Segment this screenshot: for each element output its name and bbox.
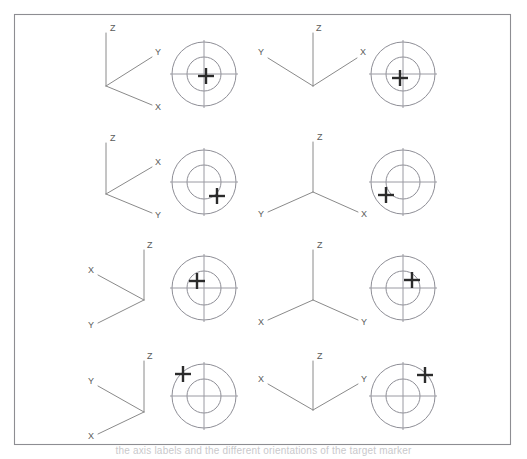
cell-r3c1-axis-triad: ZXY [88, 240, 153, 330]
cell-r3c1-axis-x [98, 275, 144, 300]
cell-r3c2: ZXY [258, 240, 437, 327]
cell-r1c2-axis-triad: ZYX [258, 23, 366, 86]
cell-r1c2-axis-label-z: Z [316, 23, 322, 33]
cell-r2c1-target [170, 148, 238, 216]
cell-r2c2-axis-triad: ZYX [258, 132, 367, 219]
cell-r1c2-axis-label-y: Y [258, 47, 264, 57]
cell-r4c1: ZYX [88, 351, 238, 441]
cell-r3c1-axis-label-y: Y [88, 320, 94, 330]
cell-r3c1-target [170, 254, 238, 322]
cell-r1c1-axis-y [106, 57, 152, 86]
cell-r1c1-axis-label-z: Z [110, 23, 116, 33]
cell-r1c2-target [369, 40, 437, 108]
cell-r3c2-axis-label-z: Z [317, 240, 323, 250]
cell-r3c1-axis-label-z: Z [147, 240, 153, 250]
cell-r2c2-axis-label-y: Y [258, 209, 264, 219]
cell-r3c1-marker-cross [189, 273, 205, 289]
cell-r4c2-target [369, 362, 437, 430]
cell-r2c2-axis-label-z: Z [317, 132, 323, 142]
page-caption-fragment: the axis labels and the different orient… [0, 445, 527, 459]
cell-r4c2: ZXY [258, 351, 437, 430]
cell-r1c1: ZYX [106, 23, 238, 112]
cell-r4c1-axis-label-x: X [88, 431, 94, 441]
cell-r4c1-axis-y [98, 386, 144, 412]
cell-r2c1-axis-label-z: Z [110, 133, 116, 143]
cell-r2c1-axis-label-x: X [155, 157, 161, 167]
cell-r1c1-axis-label-x: X [155, 102, 161, 112]
figure-root: ZYXZYXZXYZYXZXYZXYZYXZXY the axis labels… [0, 0, 527, 459]
cell-r4c1-axis-triad: ZYX [88, 351, 153, 441]
cell-r2c1-axis-x [106, 167, 152, 194]
cell-r1c1-axis-label-y: Y [155, 47, 161, 57]
cell-r4c2-axis-y [313, 384, 358, 410]
cell-r4c2-axis-label-x: X [258, 374, 264, 384]
cell-r2c1-axis-label-y: Y [155, 210, 161, 220]
cell-r4c2-axis-triad: ZXY [258, 351, 367, 410]
cell-r4c2-axis-x [268, 384, 313, 410]
cell-r2c2-marker-cross [378, 187, 394, 203]
cell-r1c2-marker-cross [392, 70, 408, 86]
cell-r1c1-axis-triad: ZYX [106, 23, 161, 112]
cell-r4c2-axis-label-y: Y [361, 374, 367, 384]
cell-r2c2-axis-y [268, 192, 313, 212]
cell-r1c1-axis-x [106, 86, 152, 105]
cell-r2c2-axis-label-x: X [361, 209, 367, 219]
cell-r1c1-marker-cross [198, 68, 214, 84]
cell-r1c2-axis-x [313, 58, 357, 86]
cell-r2c1-marker-cross [209, 188, 225, 204]
cell-r4c2-axis-label-z: Z [317, 351, 323, 361]
cell-r3c2-target [369, 254, 437, 322]
cell-r4c1-axis-x [98, 412, 144, 434]
cell-r3c2-axis-label-x: X [258, 317, 264, 327]
cell-r4c1-target [170, 362, 238, 430]
cell-r3c1-axis-y [98, 300, 144, 323]
cell-r2c1: ZXY [106, 133, 238, 220]
cell-r1c2-axis-label-x: X [360, 47, 366, 57]
cell-r3c2-axis-y [313, 300, 358, 320]
cell-r3c1-axis-label-x: X [88, 265, 94, 275]
cell-r1c1-target [170, 40, 238, 108]
cell-r2c1-axis-y [106, 194, 152, 213]
cell-r2c2-target [369, 148, 437, 216]
cell-r3c2-axis-x [268, 300, 313, 320]
cell-r4c1-axis-label-y: Y [88, 376, 94, 386]
cell-r1c2-axis-y [268, 58, 313, 86]
cell-r3c2-axis-triad: ZXY [258, 240, 367, 327]
cell-r2c1-axis-triad: ZXY [106, 133, 161, 220]
cell-r1c2: ZYX [258, 23, 437, 108]
cell-r3c1: ZXY [88, 240, 238, 330]
axis-orientation-figure: ZYXZYXZXYZYXZXYZXYZYXZXY [0, 0, 527, 459]
cell-r3c2-axis-label-y: Y [361, 317, 367, 327]
cell-r4c1-axis-label-z: Z [147, 351, 153, 361]
cell-r2c2-axis-x [313, 192, 358, 212]
cell-r2c2: ZYX [258, 132, 437, 219]
cell-r3c2-marker-cross [404, 272, 420, 288]
